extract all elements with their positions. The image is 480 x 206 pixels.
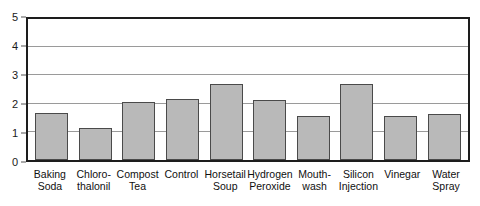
bar-slot [422,19,466,160]
bar[interactable] [340,84,373,160]
bar-slot [30,19,74,160]
bar-slot [335,19,379,160]
y-axis-tick-label: 3 [0,70,18,81]
x-axis-tick-label: Mouth-wash [293,166,337,206]
y-axis: 012345 [0,0,18,206]
x-axis-tick-label-line: Hydrogen [247,168,293,180]
x-axis-tick-label-line [380,180,424,192]
x-axis-tick-label-line: Control [159,168,203,180]
x-axis-tick-label-line: Tea [116,180,160,192]
x-axis-tick-label-line: wash [293,180,337,192]
y-axis-tick-label: 1 [0,128,18,139]
bar-slot [248,19,292,160]
bar-slot [292,19,336,160]
bar-series [28,19,468,160]
x-axis-tick-label: SiliconInjection [337,166,381,206]
x-axis-tick-label-line: Water [424,168,468,180]
bar[interactable] [122,102,155,160]
bar[interactable] [79,128,112,160]
x-axis-tick-label: Chloro-thalonil [72,166,116,206]
x-axis-tick-label-line: Spray [424,180,468,192]
x-axis-tick-label-line: Horsetail [203,168,247,180]
bar-slot [117,19,161,160]
x-axis-tick-label: WaterSpray [424,166,468,206]
x-axis-tick-label: BakingSoda [28,166,72,206]
x-axis-tick-label-line: Soup [203,180,247,192]
x-axis-tick-label-line: Peroxide [247,180,293,192]
x-axis-tick-label-line: Compost [116,168,160,180]
x-axis-tick-label-line: thalonil [72,180,116,192]
x-axis-tick-label-line: Mouth- [293,168,337,180]
x-axis-tick-label-line: Injection [337,180,381,192]
x-axis-tick-label-line: Vinegar [380,168,424,180]
x-axis-tick-label-line: Baking [28,168,72,180]
y-axis-tick-label: 5 [0,12,18,23]
plot-area [26,17,470,162]
bar[interactable] [210,84,243,160]
bar-chart: 012345 BakingSodaChloro-thalonilCompostT… [0,0,480,206]
y-axis-tick-label: 2 [0,99,18,110]
x-axis-tick-label-line: Chloro- [72,168,116,180]
x-axis-tick-label: CompostTea [116,166,160,206]
bar-slot [379,19,423,160]
bar[interactable] [297,116,330,160]
x-axis-tick-label: Control [159,166,203,206]
x-axis-tick-label-line: Soda [28,180,72,192]
x-axis-tick-label: HydrogenPeroxide [247,166,293,206]
bar[interactable] [253,100,286,160]
bar-slot [74,19,118,160]
x-axis-tick-label: HorsetailSoup [203,166,247,206]
y-axis-tick-label: 0 [0,157,18,168]
bar-slot [161,19,205,160]
y-axis-tick-label: 4 [0,41,18,52]
bar[interactable] [428,114,461,160]
bar-slot [204,19,248,160]
x-axis-tick-label-line [159,180,203,192]
x-axis-tick-label-line: Silicon [337,168,381,180]
x-axis: BakingSodaChloro-thalonilCompostTeaContr… [26,166,470,206]
bar[interactable] [384,116,417,160]
bar[interactable] [35,113,68,160]
x-axis-tick-label: Vinegar [380,166,424,206]
bar[interactable] [166,99,199,160]
